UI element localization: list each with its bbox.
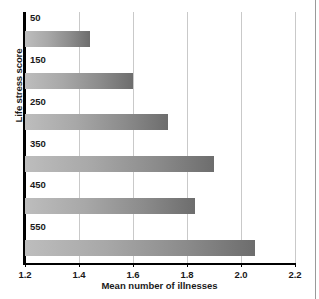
bar-category-label: 450 xyxy=(30,179,46,190)
bar-category-label: 50 xyxy=(30,12,41,23)
x-axis-title: Mean number of illnesses xyxy=(0,280,319,291)
x-tick-label: 1.2 xyxy=(18,269,31,280)
x-tick-label: 1.6 xyxy=(126,269,139,280)
bar-group: 350 xyxy=(25,138,295,180)
plot-area: 1.21.41.61.82.02.2 50150250350450550 xyxy=(25,12,295,263)
y-axis-title: Life stress score xyxy=(13,16,24,156)
bar xyxy=(25,31,90,47)
tick-mark xyxy=(79,263,80,267)
x-tick-label: 1.4 xyxy=(72,269,85,280)
bar xyxy=(25,198,195,214)
bar xyxy=(25,114,168,130)
bar xyxy=(25,240,255,256)
bar-group: 150 xyxy=(25,54,295,96)
x-axis-spine xyxy=(23,263,295,265)
x-tick-label: 2.2 xyxy=(288,269,301,280)
bar-group: 550 xyxy=(25,221,295,263)
tick-mark xyxy=(295,263,296,267)
bar-category-label: 150 xyxy=(30,54,46,65)
gridline xyxy=(295,12,296,263)
bar xyxy=(25,156,214,172)
bar-chart: Life stress score 1.21.41.61.82.02.2 501… xyxy=(0,0,319,299)
page-divider xyxy=(315,0,317,299)
x-tick-label: 2.0 xyxy=(234,269,247,280)
tick-mark xyxy=(25,263,26,267)
x-tick-label: 1.8 xyxy=(180,269,193,280)
bar-group: 250 xyxy=(25,96,295,138)
bar-category-label: 550 xyxy=(30,221,46,232)
bar-category-label: 250 xyxy=(30,96,46,107)
bar-category-label: 350 xyxy=(30,138,46,149)
bar-group: 450 xyxy=(25,179,295,221)
bar xyxy=(25,73,133,89)
tick-mark xyxy=(187,263,188,267)
bar-group: 50 xyxy=(25,12,295,54)
tick-mark xyxy=(133,263,134,267)
tick-mark xyxy=(241,263,242,267)
